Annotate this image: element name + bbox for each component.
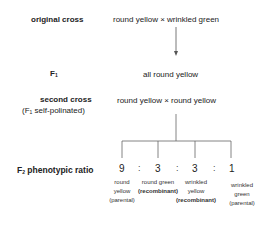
ratio-value-1: 9	[119, 163, 125, 174]
outcome-4-description: wrinkled green (parental)	[222, 181, 262, 208]
ratio-value-3: 3	[192, 163, 198, 174]
ratio-value-4: 1	[229, 163, 235, 174]
ratio-separator-2: :	[176, 163, 179, 173]
outcome-3-line-3: (recombinant)	[171, 196, 221, 205]
cross-tree	[122, 114, 231, 158]
outcome-4-line-1: wrinkled	[222, 181, 262, 190]
ratio-separator-1: :	[138, 163, 141, 173]
ratio-value-2: 3	[155, 163, 161, 174]
outcome-4-line-2: green	[222, 190, 262, 199]
outcome-3-line-2: yellow	[171, 187, 221, 196]
outcome-3-line-1: wrinkled	[171, 178, 221, 187]
outcome-3-description: wrinkled yellow (recombinant)	[171, 178, 221, 205]
down-arrow-icon	[174, 27, 178, 56]
outcome-1-line-3: (parental)	[104, 196, 140, 205]
outcome-4-line-3: (parental)	[222, 199, 262, 208]
ratio-separator-3: :	[213, 163, 216, 173]
